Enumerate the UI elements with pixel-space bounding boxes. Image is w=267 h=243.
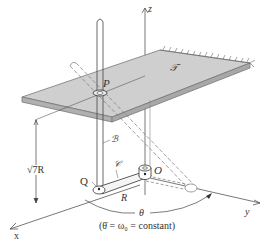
collar-p — [93, 90, 107, 96]
label-angle-theta: θ — [139, 208, 144, 218]
rod-b-leader — [103, 140, 110, 143]
point-q-leader — [92, 182, 97, 187]
label-rod-b: ℬ — [111, 135, 118, 144]
y-axis — [150, 178, 260, 205]
plate-t — [22, 50, 250, 122]
arm-c-alternate-position — [146, 100, 197, 192]
label-point-q: Q — [80, 176, 88, 187]
label-height: √7R — [27, 165, 44, 175]
label-plate-t: 𝒯 — [170, 63, 178, 73]
label-point-p: P — [103, 78, 110, 89]
label-origin-o: O — [154, 165, 162, 176]
label-arm-length-r: R — [121, 193, 127, 203]
label-y-axis: y — [245, 207, 249, 217]
label-z-axis: z — [148, 4, 152, 14]
height-dimension — [34, 120, 38, 203]
arm-c-leader — [116, 170, 118, 178]
hub-o — [139, 165, 151, 180]
label-condition: (θ̇ = ω₀ = constant) — [99, 221, 175, 231]
mechanics-diagram — [0, 0, 267, 243]
label-x-axis: x — [14, 231, 19, 241]
arm-c — [93, 172, 146, 194]
theta-arc — [85, 193, 212, 213]
label-arm-c: 𝒞 — [114, 160, 121, 169]
